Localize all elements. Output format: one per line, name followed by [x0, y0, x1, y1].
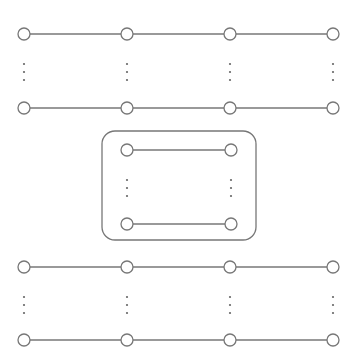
ellipsis-dot [230, 179, 232, 181]
node-circle [327, 334, 339, 346]
ellipsis-dot [23, 71, 25, 73]
node-circle [121, 28, 133, 40]
vertical-ellipsis [126, 179, 232, 197]
node-circle [224, 261, 236, 273]
ellipsis-dot [332, 312, 334, 314]
ellipsis-dot [332, 63, 334, 65]
node-circle [327, 261, 339, 273]
ellipsis-dot [126, 63, 128, 65]
node-circle [18, 28, 30, 40]
node-circle [18, 334, 30, 346]
ellipsis-dot [230, 195, 232, 197]
ellipsis-dot [126, 187, 128, 189]
ellipsis-dot [230, 187, 232, 189]
top-row-first [18, 28, 339, 40]
ellipsis-dot [229, 79, 231, 81]
node-circle [18, 102, 30, 114]
node-circle [121, 102, 133, 114]
node-circle [224, 28, 236, 40]
ellipsis-dot [126, 296, 128, 298]
lattice-diagram [0, 0, 357, 362]
node-circle [224, 102, 236, 114]
ellipsis-dot [126, 79, 128, 81]
ellipsis-dot [23, 79, 25, 81]
node-circle [327, 28, 339, 40]
ellipsis-dot [23, 63, 25, 65]
top-row-last [18, 102, 339, 114]
inner-boxed-node-group [102, 131, 256, 240]
ellipsis-dot [126, 312, 128, 314]
ellipsis-dot [229, 312, 231, 314]
vertical-ellipsis [23, 296, 334, 314]
inner-row-last [121, 218, 237, 230]
inner-row-first [121, 144, 237, 156]
ellipsis-dot [229, 304, 231, 306]
node-circle [121, 218, 133, 230]
node-circle [225, 144, 237, 156]
ellipsis-dot [332, 296, 334, 298]
ellipsis-dot [23, 312, 25, 314]
ellipsis-dot [126, 179, 128, 181]
node-circle [327, 102, 339, 114]
bottom-node-group [18, 261, 339, 346]
vertical-ellipsis [23, 63, 334, 81]
ellipsis-dot [126, 195, 128, 197]
node-circle [18, 261, 30, 273]
node-circle [121, 261, 133, 273]
ellipsis-dot [332, 304, 334, 306]
node-circle [224, 334, 236, 346]
ellipsis-dot [332, 71, 334, 73]
ellipsis-dot [229, 63, 231, 65]
ellipsis-dot [23, 296, 25, 298]
node-circle [121, 144, 133, 156]
ellipsis-dot [229, 71, 231, 73]
top-node-group [18, 28, 339, 114]
ellipsis-dot [126, 304, 128, 306]
bottom-row-last [18, 334, 339, 346]
node-circle [121, 334, 133, 346]
ellipsis-dot [229, 296, 231, 298]
ellipsis-dot [332, 79, 334, 81]
diagram-canvas [0, 0, 357, 362]
node-circle [225, 218, 237, 230]
ellipsis-dot [126, 71, 128, 73]
ellipsis-dot [23, 304, 25, 306]
bottom-row-first [18, 261, 339, 273]
